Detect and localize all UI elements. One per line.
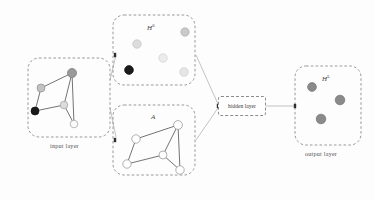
adjacency-graph-node <box>159 151 167 159</box>
input-graph-edge <box>35 105 64 111</box>
output-layer-label-sup: L <box>327 74 330 79</box>
feature-node <box>125 66 134 75</box>
input-graph-node <box>70 120 78 128</box>
feature-node <box>180 68 188 76</box>
input-graph-node <box>37 84 45 92</box>
arrow-adjacency-inlet <box>114 138 116 142</box>
adjacency-graph-edge <box>127 155 163 164</box>
output-node <box>335 95 345 105</box>
feature-matrix-label: H0 <box>147 23 155 32</box>
output-node <box>316 114 326 124</box>
feature-matrix-label-sup: 0 <box>152 23 155 28</box>
feature-node <box>159 54 167 62</box>
adjacency-graph-nodes <box>123 121 184 175</box>
hidden-layer-box[interactable]: hidden layer <box>218 96 266 116</box>
connector-lines-group <box>110 55 295 140</box>
adjacency-graph-node <box>176 166 184 174</box>
adjacency-graph-edges <box>127 125 180 170</box>
output-layer-label: HL <box>322 74 330 83</box>
input-graph-edges <box>35 73 74 124</box>
connector-features-to-hidden <box>196 55 218 104</box>
output-layer-nodes <box>308 83 345 124</box>
feature-matrix-nodes <box>125 28 190 76</box>
adjacency-matrix-label: A <box>151 113 155 121</box>
feature-node <box>133 40 141 48</box>
connector-adjacency-to-hidden <box>196 108 218 140</box>
diagram-canvas: hidden layer input layer H0 A HL output … <box>0 0 374 200</box>
arrow-marker-group <box>114 53 296 142</box>
input-graph-node <box>67 68 76 77</box>
diagram-svg-layer <box>0 0 374 200</box>
input-graph-node <box>31 107 39 115</box>
adjacency-graph-node <box>132 135 140 143</box>
input-graph-edge <box>72 73 74 124</box>
output-layer-caption: output layer <box>305 150 337 157</box>
adjacency-graph-node <box>174 121 183 130</box>
arrow-output-inlet <box>294 104 296 108</box>
input-graph-edge <box>41 73 72 88</box>
adjacency-graph-node <box>123 160 131 168</box>
arrow-features-inlet <box>114 53 116 57</box>
hidden-layer-label: hidden layer <box>228 103 256 109</box>
input-graph-node <box>60 101 68 109</box>
feature-node <box>181 28 189 36</box>
input-layer-caption: input layer <box>50 142 79 149</box>
adjacency-graph-edge <box>178 125 180 170</box>
output-node <box>308 83 317 92</box>
